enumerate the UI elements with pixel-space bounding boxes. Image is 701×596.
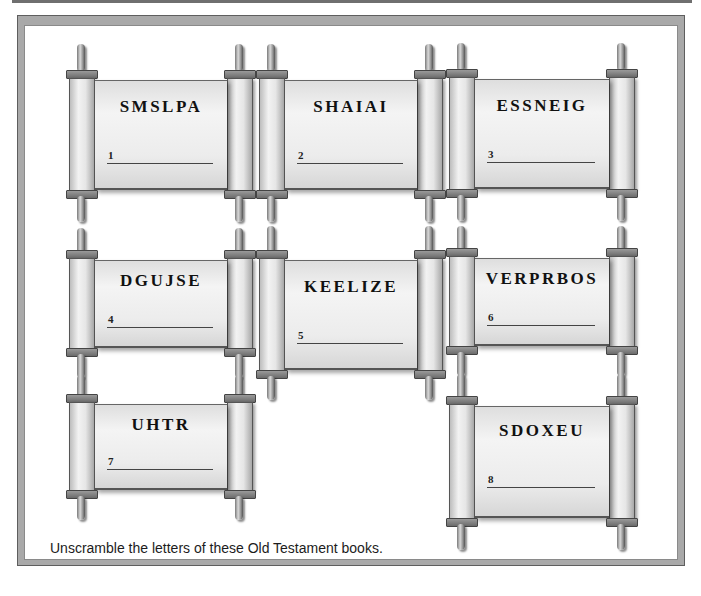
roller-left <box>449 404 475 519</box>
knob-bottom-right <box>617 195 625 221</box>
knob-bottom-left <box>267 196 275 222</box>
scroll-paper: KEELIZE 5 <box>285 260 417 370</box>
knob-bottom-left <box>77 496 85 520</box>
answer-number: 3 <box>488 148 494 160</box>
knob-bottom-left <box>457 352 465 376</box>
knob-bottom-left <box>457 195 465 221</box>
roller-left <box>449 256 475 347</box>
knob-top-right <box>617 43 625 71</box>
roller-left <box>259 258 285 371</box>
scroll-paper: SHAIAI 2 <box>285 80 417 190</box>
knob-bottom-right <box>617 524 625 550</box>
roller-right <box>227 78 253 191</box>
scroll-4: DGUJSE 4 <box>66 228 258 378</box>
answer-number: 8 <box>488 473 494 485</box>
scroll-paper: ESSNEIG 3 <box>475 79 609 189</box>
scroll-5: KEELIZE 5 <box>256 226 448 398</box>
knob-bottom-right <box>235 496 243 520</box>
scrambled-word: KEELIZE <box>285 277 417 297</box>
scrambled-word: UHTR <box>95 415 227 435</box>
roller-right <box>417 78 443 191</box>
roller-left <box>69 402 95 491</box>
knob-bottom-right <box>617 352 625 376</box>
knob-top-right <box>235 44 243 72</box>
roller-right <box>227 402 253 491</box>
scroll-paper: UHTR 7 <box>95 404 227 490</box>
scroll-paper: VERPRBOS 6 <box>475 258 609 346</box>
scrambled-word: SDOXEU <box>475 421 609 441</box>
knob-bottom-left <box>77 196 85 222</box>
answer-number: 4 <box>108 313 114 325</box>
scrambled-word: DGUJSE <box>95 271 227 291</box>
answer-number: 5 <box>298 329 304 341</box>
roller-left <box>69 78 95 191</box>
roller-right <box>417 258 443 371</box>
knob-bottom-right <box>425 376 433 400</box>
knob-bottom-left <box>267 376 275 400</box>
scrambled-word: SHAIAI <box>285 97 417 117</box>
answer-line[interactable] <box>107 327 213 328</box>
roller-right <box>609 404 635 519</box>
answer-line[interactable] <box>107 469 213 470</box>
roller-right <box>227 258 253 349</box>
answer-line[interactable] <box>297 163 403 164</box>
roller-left <box>449 77 475 190</box>
scrambled-word: VERPRBOS <box>475 269 609 289</box>
answer-number: 1 <box>108 149 114 161</box>
answer-number: 6 <box>488 311 494 323</box>
scrambled-word: SMSLPA <box>95 97 227 117</box>
knob-bottom-right <box>425 196 433 222</box>
scroll-paper: DGUJSE 4 <box>95 260 227 348</box>
knob-top-right <box>425 44 433 72</box>
roller-right <box>609 256 635 347</box>
scroll-7: UHTR 7 <box>66 375 258 520</box>
answer-line[interactable] <box>487 162 595 163</box>
scroll-3: ESSNEIG 3 <box>446 43 640 221</box>
knob-top-left <box>77 44 85 72</box>
top-divider <box>12 0 692 3</box>
scroll-paper: SDOXEU 8 <box>475 406 609 518</box>
scrambled-word: ESSNEIG <box>475 96 609 116</box>
answer-number: 7 <box>108 455 114 467</box>
knob-bottom-right <box>235 196 243 222</box>
scroll-6: VERPRBOS 6 <box>446 226 640 376</box>
answer-line[interactable] <box>297 343 403 344</box>
knob-bottom-left <box>457 524 465 550</box>
scroll-2: SHAIAI 2 <box>256 44 448 222</box>
answer-number: 2 <box>298 149 304 161</box>
knob-top-left <box>457 43 465 71</box>
answer-line[interactable] <box>487 325 595 326</box>
knob-top-left <box>267 44 275 72</box>
roller-left <box>69 258 95 349</box>
scroll-paper: SMSLPA 1 <box>95 80 227 190</box>
answer-line[interactable] <box>107 163 213 164</box>
roller-left <box>259 78 285 191</box>
answer-line[interactable] <box>487 487 595 488</box>
roller-right <box>609 77 635 190</box>
scroll-8: SDOXEU 8 <box>446 374 640 550</box>
instructions-text: Unscramble the letters of these Old Test… <box>50 540 383 556</box>
scroll-1: SMSLPA 1 <box>66 44 258 222</box>
